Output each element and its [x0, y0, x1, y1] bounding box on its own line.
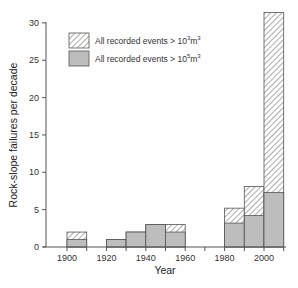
x-tick-label: 1920: [96, 253, 116, 263]
bars-group: [67, 12, 284, 247]
x-tick-label: 1960: [175, 253, 195, 263]
bar-grey-1900: [67, 240, 87, 247]
y-axis-label: Rock-slope failures per decade: [7, 62, 19, 207]
y-tick-label: 20: [29, 93, 39, 103]
y-ticks: 051015202530: [29, 18, 46, 252]
bar-grey-1930: [126, 232, 146, 247]
x-axis-label: Year: [154, 264, 176, 276]
y-tick-label: 30: [29, 18, 39, 28]
x-tick-label: 1900: [57, 253, 77, 263]
x-tick-label: 1980: [215, 253, 235, 263]
bar-grey-1950: [166, 232, 186, 247]
rock-slope-failures-chart: 051015202530 190019201940196019802000 Ro…: [0, 0, 298, 288]
y-tick-label: 0: [34, 242, 39, 252]
legend-swatch-grey: [69, 51, 89, 66]
legend-item-hatched: All recorded events > 103m3: [69, 33, 201, 48]
legend-label-grey: All recorded events > 105m3: [95, 53, 201, 64]
legend-label-hatched: All recorded events > 103m3: [95, 35, 201, 46]
legend-item-grey: All recorded events > 105m3: [69, 51, 201, 66]
x-tick-label: 1940: [136, 253, 156, 263]
x-ticks: 190019201940196019802000: [57, 247, 284, 263]
bar-grey-1990: [244, 216, 264, 247]
y-tick-label: 10: [29, 167, 39, 177]
bar-grey-1980: [225, 223, 245, 247]
x-tick-label: 2000: [254, 253, 274, 263]
bar-grey-1940: [146, 225, 166, 247]
legend-swatch-hatched: [69, 33, 89, 48]
y-tick-label: 25: [29, 55, 39, 65]
legend: All recorded events > 103m3 All recorded…: [69, 33, 201, 66]
bar-grey-1920: [106, 240, 126, 247]
y-tick-label: 5: [34, 205, 39, 215]
y-tick-label: 15: [29, 130, 39, 140]
bar-grey-2000: [264, 192, 284, 247]
